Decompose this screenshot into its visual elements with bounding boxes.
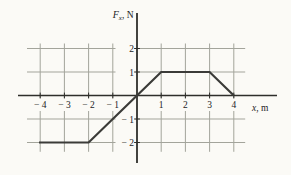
x-tick-label: − 4 bbox=[34, 100, 47, 110]
y-tick-label: − 2 bbox=[122, 138, 135, 148]
x-tick-label: 1 bbox=[159, 100, 164, 110]
chart-svg: − 4− 3− 2− 1123421− 1− 2Fx, Nx, m bbox=[0, 0, 291, 175]
x-tick-label: 3 bbox=[207, 100, 212, 110]
y-tick-label: 2 bbox=[129, 44, 134, 54]
x-tick-label: − 3 bbox=[58, 100, 71, 110]
y-tick-label: − 1 bbox=[122, 115, 135, 125]
x-tick-label: 2 bbox=[183, 100, 188, 110]
x-tick-label: − 1 bbox=[107, 100, 120, 110]
x-tick-label: 4 bbox=[231, 100, 236, 110]
force-vs-position-figure: − 4− 3− 2− 1123421− 1− 2Fx, Nx, m bbox=[0, 0, 291, 175]
x-tick-label: − 2 bbox=[82, 100, 95, 110]
y-tick-label: 1 bbox=[129, 68, 134, 78]
x-axis-label: x, m bbox=[251, 103, 269, 113]
